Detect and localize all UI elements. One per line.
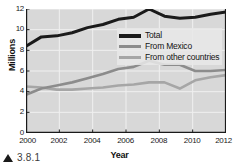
figure-caption: 3.8.1 (3, 152, 40, 163)
figure-immigration-chart: Millions 024681012 TotalFrom MexicoFrom … (0, 0, 239, 168)
x-axis-tick-labels: 2000200220042006200820102012 (0, 0, 239, 168)
x-tick-label: 2002 (46, 137, 72, 145)
figure-caption-text: 3.8.1 (17, 152, 40, 163)
x-tick-label: 2012 (211, 137, 237, 145)
x-tick-label: 2000 (15, 137, 41, 145)
x-tick-label: 2010 (179, 137, 205, 145)
x-tick-label: 2006 (113, 137, 139, 145)
x-tick-label: 2004 (79, 137, 105, 145)
x-tick-label: 2008 (146, 137, 172, 145)
triangle-up-icon (3, 154, 13, 162)
